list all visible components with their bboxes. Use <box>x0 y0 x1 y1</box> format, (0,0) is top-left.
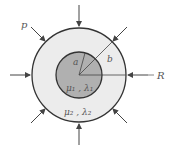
outer-radius-label: b <box>107 54 113 64</box>
pressure-label: p <box>21 19 28 30</box>
arrow-top-left <box>31 27 45 41</box>
inner-material-label: μ₁ , λ₁ <box>66 83 93 93</box>
outer-material-label: μ₂ , λ₂ <box>64 107 92 117</box>
arrow-bottom-left <box>31 109 45 123</box>
outer-radius-symbol-label: R <box>156 70 165 81</box>
composite-sphere-diagram: p R a b μ₁ , λ₁ μ₂ , λ₂ <box>0 0 177 150</box>
inner-radius-label: a <box>73 57 78 67</box>
arrow-top-right <box>113 27 127 41</box>
arrow-bottom-right <box>113 109 127 123</box>
